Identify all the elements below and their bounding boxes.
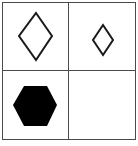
- cell-top-right: [69, 3, 135, 70]
- cell-bottom-left: [3, 71, 68, 139]
- cell-top-left: [3, 3, 68, 70]
- cell-bottom-right-empty[interactable]: [69, 71, 135, 139]
